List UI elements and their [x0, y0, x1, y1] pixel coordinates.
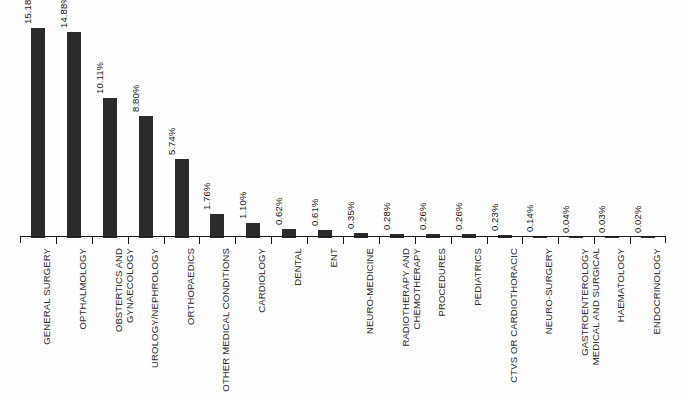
bar-value-label: 0.02% — [632, 205, 643, 232]
axis-tick — [594, 237, 595, 244]
category-label: CARDIOLOGY — [257, 248, 268, 313]
category-label-line: GENERAL SURGERY — [41, 248, 52, 345]
axis-tick — [558, 237, 559, 244]
category-label: ENDOCRINOLOGY — [652, 248, 663, 334]
category-label-line: GASTROENTEROLOGY — [579, 248, 590, 356]
bar-value-label: 0.28% — [380, 203, 391, 230]
category-label-line: UROLOGY/NEPHROLOGY — [149, 248, 160, 368]
axis-tick — [56, 237, 57, 244]
bar-group: 0.26% — [462, 10, 476, 238]
bar-value-label: 10.11% — [93, 62, 104, 94]
category-label: GASTROENTEROLOGYMEDICAL AND SURGICAL — [580, 248, 601, 365]
category-label: HAEMATOLOGY — [616, 248, 627, 322]
axis-tick — [343, 237, 344, 244]
bar-group: 0.61% — [318, 10, 332, 238]
x-axis-cap-left — [20, 236, 21, 243]
bar-group: 15.18% — [31, 10, 45, 238]
category-label-line: CTVS OR CARDIOTHORACIC — [508, 248, 519, 383]
axis-tick — [630, 237, 631, 244]
chart-page: 15.18%14.88%10.11%8.80%5.74%1.76%1.10%0.… — [0, 0, 682, 400]
axis-tick — [235, 237, 236, 244]
bar-value-label: 0.14% — [524, 205, 535, 232]
bar-value-label: 8.80% — [129, 85, 140, 112]
bar-value-label: 15.18% — [21, 0, 32, 24]
bar-group: 0.28% — [390, 10, 404, 238]
category-label-line: OBSTERTICS AND — [113, 248, 124, 332]
bar[interactable] — [139, 116, 153, 238]
category-label: PROCEDURES — [437, 248, 448, 317]
category-label: ORTHOPAEDICS — [186, 248, 197, 325]
category-label-line: ENT — [328, 248, 339, 267]
bar-value-label: 0.23% — [488, 203, 499, 230]
axis-tick — [199, 237, 200, 244]
category-label-line: MEDICAL AND SURGICAL — [591, 248, 602, 365]
bar-value-label: 1.10% — [237, 191, 248, 218]
bar-group: 0.23% — [498, 10, 512, 238]
bar-value-label: 0.62% — [273, 198, 284, 225]
category-label: OTHER MEDICAL CONDITIONS — [221, 248, 232, 392]
bar[interactable] — [103, 98, 117, 238]
category-label-line: HAEMATOLOGY — [615, 248, 626, 322]
axis-tick — [379, 237, 380, 244]
category-label-line: GYNAECOLOGY — [124, 248, 135, 332]
bar-group: 0.03% — [605, 10, 619, 238]
bar-group: 10.11% — [103, 10, 117, 238]
bar-group: 0.62% — [282, 10, 296, 238]
bar[interactable] — [67, 32, 81, 238]
axis-tick — [164, 237, 165, 244]
bar[interactable] — [210, 214, 224, 238]
category-label-line: CARDIOLOGY — [256, 248, 267, 313]
bar-value-label: 14.88% — [57, 0, 68, 28]
category-label-line: OPTHALMOLOGY — [77, 248, 88, 330]
category-label: DENTAL — [293, 248, 304, 286]
category-label: RADIOTHERAPY ANDCHEMOTHERAPY — [401, 248, 422, 347]
bar-value-label: 0.35% — [344, 202, 355, 229]
bar-value-label: 0.04% — [560, 205, 571, 232]
axis-tick — [522, 237, 523, 244]
bar-group: 8.80% — [139, 10, 153, 238]
bar-value-label: 0.26% — [416, 203, 427, 230]
bar-group: 14.88% — [67, 10, 81, 238]
bar-group: 0.35% — [354, 10, 368, 238]
axis-tick — [415, 237, 416, 244]
plot-area: 15.18%14.88%10.11%8.80%5.74%1.76%1.10%0.… — [20, 10, 666, 238]
axis-tick — [451, 237, 452, 244]
category-label: NEURO-SURGERY — [544, 248, 555, 334]
bar-value-label: 0.03% — [596, 205, 607, 232]
x-axis-cap-right — [665, 236, 666, 243]
category-label: CTVS OR CARDIOTHORACIC — [509, 248, 520, 383]
bar[interactable] — [175, 159, 189, 238]
bar-value-label: 5.74% — [165, 127, 176, 154]
category-label: NEURO-MEDICINE — [365, 248, 376, 334]
bar[interactable] — [31, 28, 45, 238]
category-label-line: DENTAL — [292, 248, 303, 286]
axis-tick — [307, 237, 308, 244]
category-label: OPTHALMOLOGY — [78, 248, 89, 330]
bar-group: 5.74% — [175, 10, 189, 238]
bar-value-label: 0.61% — [309, 198, 320, 225]
axis-tick — [271, 237, 272, 244]
bar-group: 0.04% — [569, 10, 583, 238]
category-label: OBSTERTICS ANDGYNAECOLOGY — [114, 248, 135, 332]
bar-group: 0.02% — [641, 10, 655, 238]
category-label: ENT — [329, 248, 340, 267]
bar-group: 1.10% — [246, 10, 260, 238]
axis-tick — [92, 237, 93, 244]
axis-tick — [487, 237, 488, 244]
bar-value-label: 0.26% — [452, 203, 463, 230]
category-label-line: NEURO-SURGERY — [543, 248, 554, 334]
category-label-line: CHEMOTHERAPY — [411, 248, 422, 347]
bar-group: 1.76% — [210, 10, 224, 238]
category-label-line: PROCEDURES — [436, 248, 447, 317]
category-label: GENERAL SURGERY — [42, 248, 53, 345]
category-label-line: OTHER MEDICAL CONDITIONS — [220, 248, 231, 392]
category-label-line: ORTHOPAEDICS — [185, 248, 196, 325]
bar-group: 0.14% — [533, 10, 547, 238]
category-label-line: PEDIATRICS — [472, 248, 483, 306]
category-label-line: RADIOTHERAPY AND — [400, 248, 411, 347]
category-label-line: ENDOCRINOLOGY — [651, 248, 662, 334]
axis-tick — [128, 237, 129, 244]
bar-group: 0.26% — [426, 10, 440, 238]
category-label-line: NEURO-MEDICINE — [364, 248, 375, 334]
category-label: PEDIATRICS — [473, 248, 484, 306]
